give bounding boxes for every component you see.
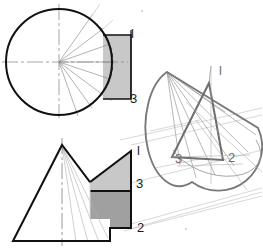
projection-line-2	[131, 188, 262, 224]
pictorial-cone-outline	[145, 72, 262, 191]
projection-line-2b	[133, 192, 262, 228]
elevation-shade-upper	[90, 151, 131, 191]
speck-top	[141, 10, 143, 12]
plan-generator-2	[59, 28, 104, 62]
plan-generator-6	[59, 62, 103, 95]
plan-label-3: 3	[130, 91, 137, 106]
plan-generator-8	[59, 62, 78, 116]
elevation-label-3: 3	[136, 176, 143, 191]
drawing-canvas: l 3 l 3 2	[0, 0, 263, 248]
elevation-view-triangle: l 3 2	[13, 138, 144, 246]
plan-view-circle: l 3	[2, 4, 137, 118]
plan-label-1: l	[131, 26, 134, 41]
plan-generator-ext-1	[93, 4, 100, 14]
elevation-generator-2	[62, 145, 88, 242]
pictorial-inscribed-triangle	[172, 83, 223, 160]
elevation-label-1: l	[137, 143, 140, 158]
pictorial-label-1: l	[219, 63, 222, 78]
pictorial-label-2: 2	[228, 150, 235, 165]
technical-drawing-figure: l 3 l 3 2	[0, 0, 263, 248]
plan-generator-1	[59, 14, 93, 62]
plan-generator-ext-2	[104, 20, 113, 28]
elevation-label-2: 2	[137, 220, 144, 235]
plan-shaded-face	[103, 35, 131, 99]
plan-generator-3	[59, 44, 110, 62]
speck-bottom	[185, 228, 187, 230]
plan-generator-5	[59, 62, 110, 79]
projection-line-1	[131, 115, 262, 145]
pictorial-label-3: 3	[175, 151, 182, 166]
projection-lines	[120, 108, 262, 231]
plan-generator-7	[59, 62, 92, 108]
projection-line-bottom	[124, 196, 262, 231]
elevation-shade-lower	[90, 191, 131, 228]
pictorial-view-oblique-cone: l 3 2	[145, 63, 262, 191]
